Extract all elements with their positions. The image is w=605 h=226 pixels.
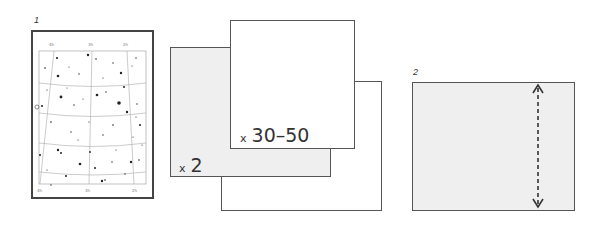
- front-card-multiplier: x 30–50: [240, 124, 309, 146]
- star-chart: 4h 3h 2h 4h 3h 2h: [31, 30, 154, 199]
- svg-text:3h: 3h: [85, 188, 91, 193]
- svg-text:2h: 2h: [132, 188, 138, 193]
- svg-text:2h: 2h: [123, 42, 129, 47]
- svg-text:3h: 3h: [88, 42, 94, 47]
- front-white-card: x 30–50: [230, 20, 355, 149]
- panel-2-number: 2: [413, 67, 418, 77]
- svg-text:4h: 4h: [37, 188, 43, 193]
- double-arrow-icon: [413, 83, 573, 209]
- star-chart-graphic: 4h 3h 2h 4h 3h 2h: [33, 32, 152, 197]
- grey-card-multiplier: x 2: [179, 154, 203, 176]
- svg-text:4h: 4h: [49, 42, 55, 47]
- panel-1-number: 1: [34, 15, 39, 25]
- grey-panel: [412, 82, 575, 211]
